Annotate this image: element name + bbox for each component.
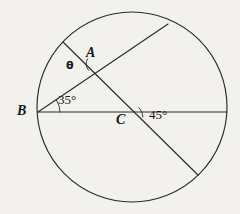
angle-label-theta: θ <box>66 60 74 71</box>
point-label-B: B <box>17 104 26 118</box>
angle-label-45: 45° <box>149 108 167 121</box>
point-label-C: C <box>116 113 125 127</box>
figure-canvas <box>0 0 240 214</box>
angle-arc-theta <box>86 59 89 70</box>
geometry-figure: A B C θ 35° 45° <box>0 0 240 214</box>
segment-chord-upper-left-to-bottom-right <box>63 42 198 175</box>
point-label-A: A <box>86 46 95 60</box>
angle-label-35: 35° <box>58 93 76 106</box>
main-circle <box>37 12 227 202</box>
